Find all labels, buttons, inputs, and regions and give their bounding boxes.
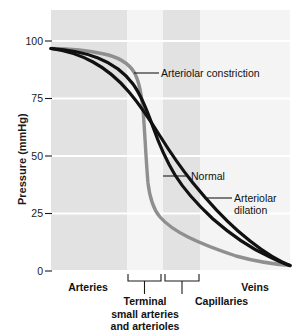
segment-label-terminal: Terminal small arteries and arterioles: [96, 295, 194, 333]
segment-label-veins: Veins: [225, 281, 285, 293]
y-tick-label-100: 100: [2, 35, 43, 47]
plot-background-bands: [51, 10, 290, 271]
y-axis-ticks: [45, 41, 52, 271]
y-tick-label-75: 75: [2, 92, 43, 104]
callout-normal: Normal: [191, 170, 225, 182]
bracket-terminal: [128, 274, 161, 281]
bracket-capillaries: [165, 274, 199, 281]
callout-dilation-line1: Arteriolar: [234, 192, 277, 204]
callout-dilation-line2: dilation: [234, 204, 277, 216]
segment-label-capillaries: Capillaries: [195, 295, 271, 307]
callout-arteriolar-dilation: Arteriolar dilation: [234, 192, 277, 216]
y-tick-label-25: 25: [2, 207, 43, 219]
segment-label-terminal-line3: and arterioles: [96, 320, 194, 333]
segment-brackets: [128, 274, 199, 294]
callout-arteriolar-constriction: Arteriolar constriction: [161, 67, 260, 79]
segment-label-arteries: Arteries: [54, 281, 122, 293]
y-tick-label-50: 50: [2, 150, 43, 162]
y-tick-label-0: 0: [2, 265, 43, 277]
segment-label-terminal-line1: Terminal: [96, 295, 194, 308]
segment-label-terminal-line2: small arteries: [96, 308, 194, 321]
band-veins: [200, 10, 290, 271]
pressure-gradient-chart: Pressure (mmHg) 100 75 50 25 0 Arteriola…: [0, 0, 298, 334]
